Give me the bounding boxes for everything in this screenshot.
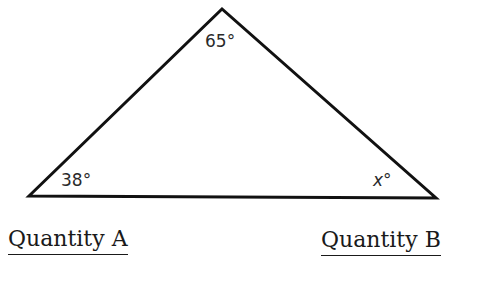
angle-left-label: 38° — [61, 170, 91, 190]
angle-right-label: x° — [373, 170, 392, 190]
quantity-b-heading: Quantity B — [321, 227, 441, 256]
angle-top-label: 65° — [205, 31, 235, 51]
quantity-a-heading: Quantity A — [8, 226, 128, 255]
